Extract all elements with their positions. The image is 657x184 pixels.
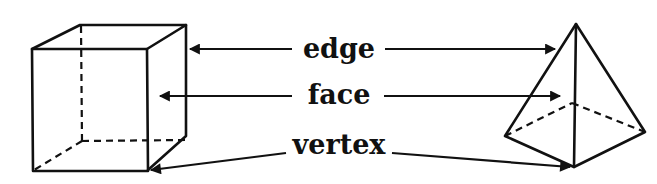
label-vertex: vertex: [292, 129, 387, 160]
label-face: face: [308, 79, 371, 110]
geometry-diagram: edge face vertex: [0, 0, 657, 184]
label-edge: edge: [303, 33, 375, 64]
cube-shape: [32, 25, 186, 171]
